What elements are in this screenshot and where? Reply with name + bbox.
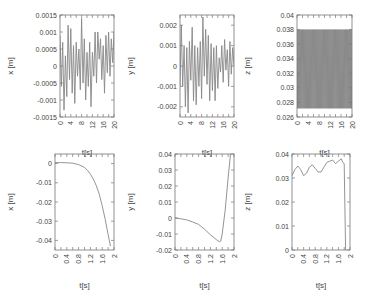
x-tick-label: 4 — [67, 121, 74, 125]
x-axis-label: t[s] — [316, 281, 327, 290]
plot-panel-bottom-left: 00.40.81.21.620-0.01-0.02-0.03-0.04t[s]x… — [6, 154, 118, 290]
y-tick-label: 0 — [53, 63, 57, 70]
x-tick-label: 4 — [187, 121, 194, 125]
x-tick-label: 1.6 — [99, 254, 106, 264]
x-tick-label: 0.4 — [183, 254, 190, 264]
plot-panel-bottom-middle: 00.40.81.21.620.040.030.020.010-0.01-0.0… — [126, 151, 238, 291]
x-tick-label: 20 — [231, 121, 238, 129]
y-tick-label: 0.04 — [275, 151, 289, 158]
plot-frame — [55, 154, 114, 250]
y-tick-label: -0.0005 — [33, 80, 57, 87]
plot-panel-bottom-right: 00.40.81.21.620.040.030.020.010t[s]z [m] — [243, 151, 354, 291]
x-tick-label: 16 — [220, 121, 227, 129]
x-tick-label: 0 — [294, 121, 301, 125]
y-tick-label: 0.04 — [280, 12, 294, 19]
y-tick-label: 0 — [168, 215, 172, 222]
y-tick-label: 0 — [173, 63, 177, 70]
x-tick-label: 0 — [177, 121, 184, 125]
y-tick-label: -0.001 — [157, 83, 177, 90]
data-line — [55, 163, 111, 247]
x-tick-label: 1.2 — [323, 254, 330, 264]
y-tick-label: -0.001 — [37, 97, 57, 104]
x-tick-label: 0 — [289, 254, 296, 258]
y-axis-label: x [m] — [6, 57, 15, 74]
chart-canvas: 0481216200.00150.0010.00050-0.0005-0.001… — [0, 0, 369, 297]
y-tick-label: 0.04 — [158, 151, 172, 158]
x-tick-label: 16 — [338, 121, 345, 129]
y-tick-label: 0.034 — [276, 55, 294, 62]
y-tick-label: -0.002 — [157, 103, 177, 110]
y-tick-label: -0.01 — [36, 179, 52, 186]
data-line — [175, 154, 231, 242]
y-tick-label: -0.01 — [156, 231, 172, 238]
x-tick-label: 2 — [231, 254, 238, 258]
y-axis-label: y [m] — [126, 57, 135, 74]
y-axis-label: z [m] — [243, 57, 252, 74]
data-line — [180, 17, 234, 113]
y-tick-label: 0.01 — [158, 199, 172, 206]
x-tick-label: 8 — [316, 121, 323, 125]
x-axis-label: t[s] — [79, 281, 90, 290]
plot-panel-top-right: 0481216200.040.0380.0360.0340.0320.030.0… — [243, 12, 356, 158]
data-line — [292, 159, 346, 250]
x-tick-label: 0.8 — [75, 254, 82, 264]
x-axis-label: t[s] — [199, 281, 210, 290]
x-tick-label: 1.2 — [87, 254, 94, 264]
y-tick-label: 0.0015 — [36, 12, 58, 19]
x-tick-label: 8 — [78, 121, 85, 125]
x-tick-label: 1.6 — [219, 254, 226, 264]
y-tick-label: 0.001 — [39, 29, 57, 36]
y-tick-label: 0.028 — [276, 99, 294, 106]
y-tick-label: 0.03 — [275, 175, 289, 182]
x-tick-label: 20 — [349, 121, 356, 129]
y-axis-label: z [m] — [243, 193, 252, 210]
x-tick-label: 0.8 — [312, 254, 319, 264]
x-tick-label: 2 — [111, 254, 118, 258]
y-tick-label: -0.04 — [36, 237, 52, 244]
x-tick-label: 8 — [198, 121, 205, 125]
y-tick-label: 0 — [285, 247, 289, 254]
x-tick-label: 16 — [100, 121, 107, 129]
y-tick-label: 0.0005 — [36, 46, 58, 53]
plot-panel-top-left: 0481216200.00150.0010.00050-0.0005-0.001… — [6, 12, 118, 158]
x-tick-label: 1.6 — [335, 254, 342, 264]
y-tick-label: -0.0015 — [33, 114, 57, 121]
y-tick-label: 0.03 — [158, 167, 172, 174]
x-tick-label: 0.4 — [300, 254, 307, 264]
y-tick-label: 0.001 — [159, 42, 177, 49]
x-tick-label: 0.8 — [195, 254, 202, 264]
plot-frame — [175, 154, 234, 250]
y-tick-label: 0.01 — [275, 223, 289, 230]
x-tick-label: 12 — [209, 121, 216, 129]
x-tick-label: 2 — [347, 254, 354, 258]
data-line — [297, 30, 352, 109]
data-line — [60, 18, 114, 110]
y-axis-label: y [m] — [126, 193, 135, 210]
y-tick-label: -0.02 — [36, 199, 52, 206]
y-tick-label: -0.02 — [156, 247, 172, 254]
y-tick-label: 0.002 — [159, 22, 177, 29]
y-tick-label: 0.038 — [276, 26, 294, 33]
x-tick-label: 0.4 — [63, 254, 70, 264]
y-tick-label: 0.02 — [275, 199, 289, 206]
y-tick-label: 0.02 — [158, 183, 172, 190]
y-tick-label: -0.03 — [36, 218, 52, 225]
y-tick-label: 0 — [48, 160, 52, 167]
x-tick-label: 1.2 — [207, 254, 214, 264]
x-tick-label: 12 — [89, 121, 96, 129]
y-tick-label: 0.026 — [276, 114, 294, 121]
x-tick-label: 20 — [111, 121, 118, 129]
y-tick-label: 0.03 — [280, 84, 294, 91]
x-tick-label: 12 — [327, 121, 334, 129]
y-tick-label: 0.032 — [276, 70, 294, 77]
x-tick-label: 0 — [57, 121, 64, 125]
x-tick-label: 4 — [305, 121, 312, 125]
x-tick-label: 0 — [172, 254, 179, 258]
plot-frame — [292, 154, 350, 250]
y-tick-label: 0.036 — [276, 41, 294, 48]
y-axis-label: x [m] — [6, 193, 15, 210]
x-tick-label: 0 — [52, 254, 59, 258]
plot-panel-top-middle: 0481216200.0020.0010-0.001-0.002t[s]y [m… — [126, 15, 238, 157]
